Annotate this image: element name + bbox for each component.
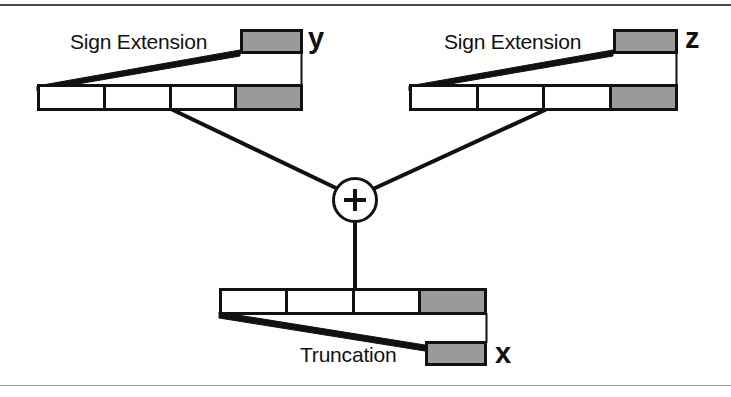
wire-z-to-adder xyxy=(373,110,545,189)
y-variable-label: y xyxy=(308,24,324,53)
y-word-cell-1 xyxy=(106,87,172,108)
wire-y-to-adder xyxy=(173,110,338,189)
y-word-cell-0 xyxy=(40,87,106,108)
x-variable-label: x xyxy=(495,339,511,368)
z-word-cell-3-shaded xyxy=(612,87,676,108)
z-sign-extension-box xyxy=(613,29,678,54)
x-word-cell-0 xyxy=(222,291,288,312)
x-truncation-box xyxy=(425,341,487,366)
adder-plus-icon xyxy=(332,177,378,223)
y-sign-extension-box xyxy=(240,29,303,54)
y-word-cell-3-shaded xyxy=(237,87,300,108)
z-word-cell-1 xyxy=(479,87,546,108)
figure-root: Sign Extension y Sign Extension z Trunca… xyxy=(0,0,731,397)
z-word-cell-0 xyxy=(412,87,479,108)
z-word xyxy=(409,84,678,111)
x-word-cell-3-shaded xyxy=(421,291,484,312)
y-word-cell-2 xyxy=(172,87,238,108)
z-sign-extension-caption: Sign Extension xyxy=(444,31,581,52)
x-word-cell-1 xyxy=(288,291,354,312)
y-sign-extension-caption: Sign Extension xyxy=(70,31,207,52)
z-word-cell-2 xyxy=(545,87,612,108)
x-word-cell-2 xyxy=(355,291,421,312)
y-word xyxy=(37,84,303,111)
x-word xyxy=(219,288,487,315)
x-truncation-caption: Truncation xyxy=(300,344,396,365)
z-variable-label: z xyxy=(685,24,700,53)
